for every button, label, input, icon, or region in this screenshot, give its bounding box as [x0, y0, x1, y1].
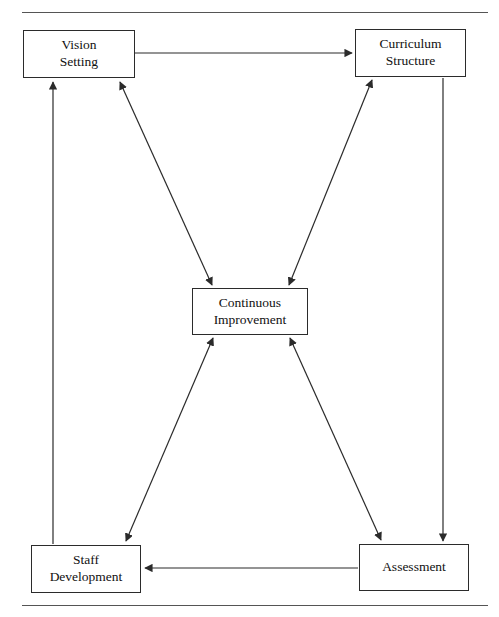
node-continuous-improvement[interactable]: Continuous Improvement	[192, 288, 308, 335]
node-curriculum-structure[interactable]: Curriculum Structure	[355, 29, 466, 77]
node-staff-development[interactable]: Staff Development	[31, 545, 141, 593]
node-label-assessment: Assessment	[378, 559, 450, 576]
diagram-page: Vision Setting Curriculum Structure Cont…	[0, 0, 499, 617]
node-vision-setting[interactable]: Vision Setting	[23, 30, 135, 78]
bottom-horizontal-rule	[22, 605, 488, 606]
edge-assessment-improvement	[290, 338, 381, 540]
edge-curriculum-improvement	[289, 80, 372, 285]
node-label-vision-setting: Vision Setting	[56, 37, 102, 71]
edge-vision-improvement	[120, 82, 212, 285]
edge-staff-improvement	[126, 338, 213, 541]
node-label-curriculum-structure: Curriculum Structure	[375, 36, 445, 70]
node-label-staff-development: Staff Development	[46, 552, 127, 586]
node-label-continuous-improvement: Continuous Improvement	[210, 295, 291, 329]
top-horizontal-rule	[22, 12, 488, 13]
node-assessment[interactable]: Assessment	[359, 544, 469, 591]
